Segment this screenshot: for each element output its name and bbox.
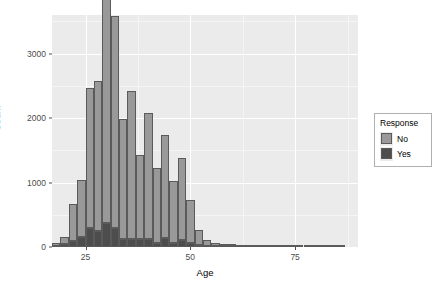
bar-stack [111,16,119,247]
bar-stack [102,0,110,247]
bar-stack [144,113,152,247]
bar-segment-no [102,0,110,223]
bar-segment-yes [111,228,119,247]
bar-segment-yes [211,245,219,247]
bar-segment-yes [278,245,286,247]
bar-segment-yes [178,240,186,247]
legend-label-yes: Yes [397,149,411,159]
bar-stack [220,244,228,247]
bar-segment-no [111,16,119,227]
bar-stack [278,246,286,247]
chart-container: 0100020003000 255075 Age Count Response … [0,0,443,298]
bar-segment-no [77,180,85,237]
bar-segment-yes [69,241,77,247]
bar-stack [211,243,219,247]
legend-key-no-icon [381,133,392,144]
bar-stack [94,81,102,247]
x-axis-title: Age [0,267,410,278]
bar-segment-yes [136,239,144,247]
y-axis-tick-mark [49,247,52,248]
bar-segment-yes [144,239,152,247]
bar-segment-yes [245,245,253,247]
bar-stack [253,246,261,247]
bar-stack [86,88,94,247]
bar-stack [69,204,77,247]
x-axis-tick-mark [86,247,87,250]
bar-segment-yes [337,245,345,247]
bar-segment-yes [220,245,228,247]
bar-stack [228,244,236,247]
bar-stack [236,245,244,247]
bar-stack [52,243,60,247]
bar-segment-yes [161,238,169,247]
x-axis-tick-mark [190,247,191,250]
bar-segment-yes [228,245,236,247]
bar-segment-yes [127,239,135,247]
bar-segment-yes [94,231,102,247]
x-axis-tick-label: 50 [186,252,195,262]
bar-segment-yes [169,243,177,247]
legend: Response No Yes [374,113,432,167]
legend-key-yes-icon [381,148,392,159]
bar-stack [119,119,127,247]
bar-stack [127,91,135,247]
bar-segment-no [127,91,135,239]
bar-stack [77,180,85,247]
x-axis-tick-label: 75 [290,252,299,262]
bar-stack [195,230,203,247]
bar-stack [60,237,68,247]
legend-swatch-yes [380,147,393,161]
bar-segment-no [136,155,144,239]
bar-stack [178,158,186,247]
y-axis-tick-mark [49,118,52,119]
bar-stack [245,245,253,247]
bar-segment-yes [119,239,127,247]
bar-stack [161,135,169,247]
bar-segment-yes [153,243,161,247]
y-axis-tick-label: 0 [41,242,46,252]
bar-segment-yes [52,245,60,247]
plot-panel [52,15,358,247]
bar-segment-yes [270,245,278,247]
bar-segment-no [186,200,194,243]
bar-series-group [52,15,358,247]
bar-segment-yes [253,245,261,247]
legend-swatch-no [380,132,393,146]
y-axis-tick-mark [49,53,52,54]
bar-segment-yes [86,228,94,247]
bar-stack [169,181,177,247]
bar-segment-no [94,81,102,231]
bar-stack [203,240,211,247]
bar-segment-yes [304,245,312,247]
bar-segment-no [169,181,177,243]
y-axis-tick-label: 1000 [27,178,46,188]
bar-segment-yes [295,245,303,247]
bar-segment-no [119,119,127,239]
bar-stack [153,168,161,247]
legend-title: Response [380,118,427,128]
bar-stack [270,246,278,247]
bar-segment-no [86,88,94,228]
bar-segment-no [60,237,68,244]
legend-item-no[interactable]: No [380,131,427,146]
bar-segment-no [178,158,186,240]
bar-segment-yes [102,223,110,247]
gridline-y-major [52,247,358,248]
bar-segment-yes [203,245,211,247]
bar-segment-no [153,168,161,243]
bar-stack [136,155,144,247]
y-axis-tick-label: 2000 [27,113,46,123]
bar-segment-yes [195,245,203,247]
x-axis-tick-mark [295,247,296,250]
bar-segment-yes [77,237,85,247]
bar-stack [262,246,270,247]
bar-segment-yes [329,245,337,247]
bar-segment-yes [262,245,270,247]
bar-segment-yes [312,245,320,247]
y-axis-tick-label: 3000 [27,49,46,59]
bar-stack [186,200,194,247]
bar-segment-yes [287,245,295,247]
legend-item-yes[interactable]: Yes [380,146,427,161]
x-axis-tick-label: 25 [81,252,90,262]
bar-segment-yes [320,245,328,247]
